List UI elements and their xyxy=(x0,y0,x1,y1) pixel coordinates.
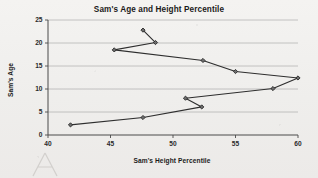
y-tick-label: 0 xyxy=(39,131,43,138)
x-axis-label: Sam's Height Percentile xyxy=(133,157,210,165)
y-tick-label: 15 xyxy=(35,62,43,69)
data-point-marker xyxy=(68,123,72,127)
y-tick-label: 5 xyxy=(39,108,43,115)
data-point-marker xyxy=(183,96,187,100)
x-tick-label: 45 xyxy=(107,140,115,147)
x-tick-label: 40 xyxy=(44,140,52,147)
gridlines-group xyxy=(48,20,298,112)
y-tick-label: 20 xyxy=(35,39,43,46)
y-axis-label: Sam's Age xyxy=(7,63,15,97)
x-tick-label: 55 xyxy=(232,140,240,147)
data-point-marker xyxy=(233,69,237,73)
chart-title: Sam's Age and Height Percentile xyxy=(94,5,225,14)
y-tick-label: 10 xyxy=(35,85,43,92)
data-point-marker xyxy=(296,76,300,80)
data-point-marker xyxy=(141,115,145,119)
y-tick-label: 25 xyxy=(35,16,43,23)
x-tick-label: 60 xyxy=(294,140,302,147)
y-axis-ticks-group: 0510152025 xyxy=(35,16,48,138)
data-point-marker xyxy=(201,58,205,62)
x-tick-label: 50 xyxy=(169,140,177,147)
data-point-marker xyxy=(112,48,116,52)
age-height-percentile-chart: Sam's Age and Height Percentile 05101520… xyxy=(0,0,318,178)
chart-container: Sam's Age and Height Percentile 05101520… xyxy=(0,0,318,178)
data-point-marker xyxy=(271,86,275,90)
data-point-marker xyxy=(200,105,204,109)
data-series-line xyxy=(71,30,299,125)
x-axis-ticks-group: 4045505560 xyxy=(44,135,302,147)
